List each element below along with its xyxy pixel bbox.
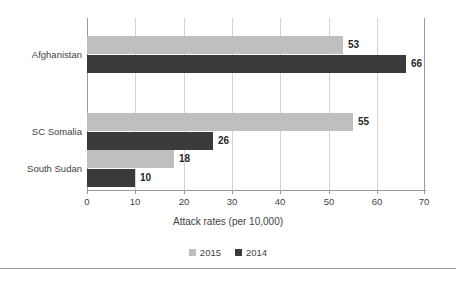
tick-mark-0 [87,190,88,194]
legend-item-2015[interactable]: 2015 [189,248,221,258]
x-tick-label-30: 30 [227,196,238,207]
tick-mark-70 [424,190,425,194]
tick-mark-20 [184,190,185,194]
gridline-60 [377,18,378,190]
bar-label-south-sudan-2014: 10 [140,169,151,187]
bar-chart: 53 66 55 26 18 10 0 10 20 30 40 50 60 70… [0,0,456,283]
category-label-south-sudan: South Sudan [0,163,82,174]
x-tick-label-0: 0 [84,196,89,207]
bottom-divider [0,268,456,269]
bar-label-sc-somalia-2015: 55 [358,113,369,131]
tick-mark-60 [377,190,378,194]
tick-mark-10 [135,190,136,194]
bar-south-sudan-2014 [87,169,135,187]
bar-label-afghanistan-2015: 53 [348,36,359,54]
bar-sc-somalia-2014 [87,132,213,150]
x-axis-line [87,190,426,191]
bar-label-sc-somalia-2014: 26 [218,132,229,150]
x-tick-label-40: 40 [275,196,286,207]
x-tick-label-60: 60 [372,196,383,207]
bar-afghanistan-2015 [87,36,343,54]
legend-swatch-icon-2014 [235,249,242,256]
x-axis-title: Attack rates (per 10,000) [0,216,456,227]
x-tick-label-10: 10 [130,196,141,207]
legend-item-2014[interactable]: 2014 [235,248,267,258]
category-label-afghanistan: Afghanistan [0,49,82,60]
legend-label-2014: 2014 [246,248,267,258]
plot-area: 53 66 55 26 18 10 [87,18,425,190]
x-tick-label-50: 50 [324,196,335,207]
tick-mark-50 [329,190,330,194]
tick-mark-30 [232,190,233,194]
bar-label-afghanistan-2014: 66 [411,55,422,73]
x-tick-label-20: 20 [179,196,190,207]
category-label-sc-somalia: SC Somalia [0,126,82,137]
legend-swatch-icon-2015 [189,249,196,256]
legend-label-2015: 2015 [200,248,221,258]
gridline-70 [424,18,425,190]
legend: 2015 2014 [0,248,456,258]
bar-label-south-sudan-2015: 18 [179,150,190,168]
bar-afghanistan-2014 [87,55,406,73]
tick-mark-40 [280,190,281,194]
bar-sc-somalia-2015 [87,113,353,131]
bar-south-sudan-2015 [87,150,174,168]
x-tick-label-70: 70 [419,196,430,207]
